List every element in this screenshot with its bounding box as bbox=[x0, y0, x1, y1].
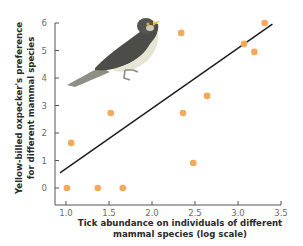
x-tick-label: 2.0 bbox=[145, 208, 159, 218]
data-point bbox=[119, 185, 126, 192]
data-point bbox=[107, 110, 114, 117]
data-point bbox=[251, 49, 258, 56]
y-axis-title: for different mammal species bbox=[26, 37, 36, 180]
y-tick-label: 2 bbox=[42, 128, 47, 138]
y-tick-label: 3 bbox=[42, 101, 47, 111]
y-tick-label: 4 bbox=[42, 73, 47, 83]
x-tick-label: 2.5 bbox=[188, 208, 202, 218]
data-point bbox=[178, 30, 185, 37]
x-tick-label: 1.0 bbox=[59, 208, 73, 218]
y-axis-title: Yellow-billed oxpecker's preference bbox=[14, 22, 24, 195]
trendline bbox=[60, 24, 272, 173]
y-tick-label: 6 bbox=[42, 18, 47, 28]
data-point bbox=[68, 140, 75, 147]
x-tick-label: 3.5 bbox=[274, 208, 288, 218]
data-point bbox=[241, 41, 248, 48]
oxpecker-bird-illustration bbox=[67, 18, 160, 87]
data-point bbox=[190, 160, 197, 167]
x-tick-label: 1.5 bbox=[102, 208, 116, 218]
x-tick-label: 3.0 bbox=[231, 208, 245, 218]
data-point bbox=[95, 185, 102, 192]
chart-axes: 01234561.01.52.02.53.03.5 bbox=[42, 18, 288, 218]
y-tick-label: 0 bbox=[42, 183, 47, 193]
data-point bbox=[180, 110, 187, 117]
y-tick-label: 1 bbox=[42, 156, 47, 166]
x-axis-title: Tick abundance on individuals of differe… bbox=[78, 218, 282, 228]
x-axis-title: mammal species (log scale) bbox=[113, 229, 247, 239]
regression-line bbox=[60, 24, 272, 173]
data-point bbox=[261, 20, 268, 27]
data-point bbox=[64, 185, 71, 192]
y-tick-label: 5 bbox=[42, 46, 47, 56]
data-point bbox=[204, 93, 211, 100]
data-points bbox=[64, 20, 268, 192]
scatter-chart: 01234561.01.52.02.53.03.5 Tick abundance… bbox=[0, 0, 303, 246]
